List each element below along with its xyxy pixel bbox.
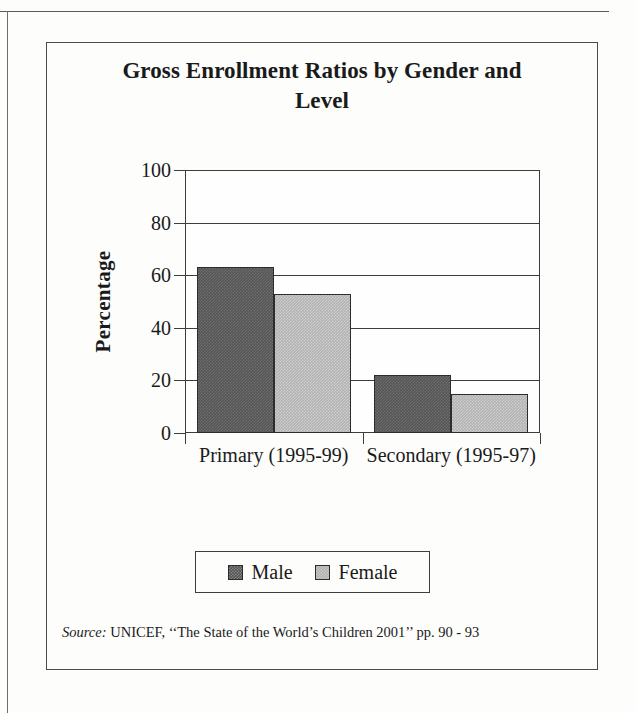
legend-item-male: Male [228, 561, 293, 584]
male-swatch-icon [228, 565, 243, 580]
x-axis-tick [540, 433, 541, 444]
y-axis-tick-label: 0 [161, 422, 171, 445]
bar-male-secondary [374, 375, 451, 433]
chart-legend: Male Female [195, 551, 430, 593]
legend-label-female: Female [339, 561, 398, 584]
y-axis-tick [174, 275, 185, 276]
x-axis-category-label: Primary (1995-99) [185, 444, 363, 467]
y-axis-tick-label: 100 [141, 159, 171, 182]
page-rule-top [0, 11, 609, 12]
source-text: UNICEF, ‘‘The State of the World’s Child… [110, 624, 479, 640]
x-axis-category-label: Secondary (1995-97) [363, 444, 541, 467]
legend-item-female: Female [315, 561, 398, 584]
y-axis-tick [174, 170, 185, 171]
y-axis-tick [174, 223, 185, 224]
gridline [185, 223, 540, 224]
y-axis-tick [174, 433, 185, 434]
plot-area: 100806040200 [185, 170, 540, 433]
bar-female-primary [274, 294, 351, 433]
chart-title-line-2: Level [295, 88, 349, 113]
female-swatch-icon [315, 565, 330, 580]
y-axis-tick-label: 60 [151, 264, 171, 287]
page-rule-left [7, 11, 8, 713]
y-axis-tick-label: 20 [151, 369, 171, 392]
source-note: Source: UNICEF, ‘‘The State of the World… [62, 624, 582, 641]
y-axis-tick [174, 328, 185, 329]
x-axis-tick [363, 433, 364, 444]
source-label: Source: [62, 624, 107, 640]
y-axis-tick-label: 40 [151, 316, 171, 339]
gridline [185, 170, 540, 171]
legend-label-male: Male [252, 561, 293, 584]
x-axis-tick [185, 433, 186, 444]
chart-title-line-1: Gross Enrollment Ratios by Gender and [122, 58, 521, 83]
y-axis-tick-label: 80 [151, 211, 171, 234]
y-axis-title: Percentage [88, 170, 118, 433]
bar-female-secondary [451, 394, 528, 433]
bar-male-primary [197, 267, 274, 433]
y-axis-tick [174, 380, 185, 381]
chart-title: Gross Enrollment Ratios by Gender and Le… [46, 56, 598, 117]
